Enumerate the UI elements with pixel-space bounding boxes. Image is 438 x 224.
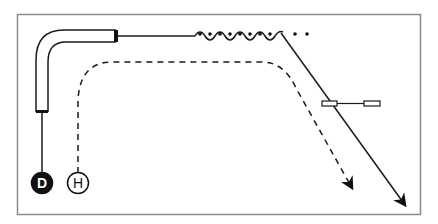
node-h-label: H bbox=[73, 175, 83, 191]
diagram-canvas: D H bbox=[0, 0, 438, 224]
bent-pipe bbox=[36, 30, 116, 112]
solid-arrow-line bbox=[281, 33, 405, 205]
bar-element bbox=[322, 101, 380, 106]
dashed-arrow-path bbox=[78, 62, 352, 188]
node-h: H bbox=[68, 173, 89, 194]
pipe-end-cap bbox=[114, 30, 118, 42]
node-d: D bbox=[32, 173, 53, 194]
node-d-label: D bbox=[37, 175, 47, 191]
